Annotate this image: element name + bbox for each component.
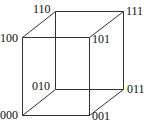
vertex-label-111: 111 [126, 5, 143, 17]
vertex-label-100: 100 [0, 32, 18, 44]
vertex-label-010: 010 [32, 80, 50, 92]
vertex-label-000: 000 [0, 109, 18, 121]
cube-diagram [0, 0, 148, 139]
vertex-label-001: 001 [92, 110, 110, 122]
vertex-label-110: 110 [33, 3, 51, 15]
vertex-label-101: 101 [92, 33, 110, 45]
vertex-label-011: 011 [127, 83, 145, 95]
edge-000-010 [23, 90, 56, 116]
